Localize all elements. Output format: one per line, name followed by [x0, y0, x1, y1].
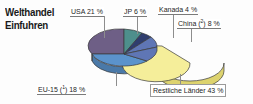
slice-label-eu: EU-15 (1) 18 % — [37, 85, 86, 95]
leader-line-jp — [137, 16, 138, 34]
eu-label-text: EU-15 ( — [38, 86, 62, 93]
slice-label-rest: Restliche Länder 43 % — [150, 84, 226, 97]
eu-label-value: ) 18 % — [65, 86, 85, 93]
slice-label-china: China (2) 8 % — [177, 19, 221, 29]
slice-label-kanada: Kanada 4 % — [158, 5, 198, 15]
leader-line-china — [191, 28, 192, 42]
chart-figure: Welthandel Einfuhren — [0, 0, 253, 104]
china-label-value: ) 8 % — [203, 20, 219, 27]
slice-label-usa: USA 21 % — [70, 7, 104, 17]
china-label-text: China ( — [178, 20, 201, 27]
leader-line-usa — [104, 16, 105, 38]
slice-top-usa — [88, 29, 124, 54]
slice-label-jp: JP 6 % — [123, 7, 147, 17]
leader-line-kanada — [173, 14, 174, 38]
leader-line-eu — [116, 72, 117, 86]
